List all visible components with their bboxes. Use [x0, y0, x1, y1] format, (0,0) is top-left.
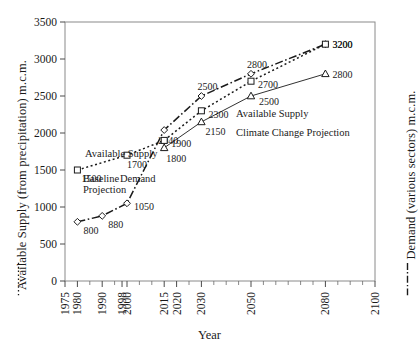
data-point-label: 880 — [108, 219, 123, 230]
x-axis-tick-label: 1980 — [71, 292, 83, 315]
data-point-square — [198, 108, 204, 114]
data-point-label: 2800 — [332, 69, 352, 80]
data-point-label: 2800 — [247, 59, 267, 70]
data-point-square — [74, 167, 80, 173]
y-axis-tick-label: 0 — [51, 275, 57, 287]
x-axis-tick-label: 2030 — [195, 292, 207, 315]
chart-annotation: Baseline — [83, 173, 119, 184]
x-axis-tick-label: 2020 — [171, 292, 183, 315]
data-point-label: 2300 — [208, 109, 228, 120]
y-axis-tick-label: 1000 — [34, 201, 57, 213]
x-axis-tick-label: 2100 — [369, 292, 381, 315]
data-point-label: 2500 — [197, 81, 217, 92]
x-axis-tick-label: 1975 — [59, 292, 71, 315]
data-point-diamond — [74, 218, 81, 225]
data-point-label: 1050 — [134, 201, 154, 212]
x-axis-tick-label: 1990 — [96, 292, 108, 315]
y-axis-tick-label: 2000 — [34, 127, 57, 139]
x-axis-tick-label: 2000 — [121, 292, 133, 315]
data-point-triangle — [198, 118, 205, 125]
chart-annotation: Climate Change Projection — [236, 127, 350, 138]
data-point-label: 2150 — [205, 126, 225, 137]
chart-annotation: Projection — [83, 184, 127, 195]
data-point-label: 1700 — [127, 159, 147, 170]
data-point-label: 1900 — [171, 138, 191, 149]
x-axis-tick-label: 2080 — [319, 292, 331, 315]
x-axis-tick-label: 2015 — [158, 292, 170, 315]
data-point-label: 800 — [83, 225, 98, 236]
data-point-diamond — [124, 200, 131, 207]
y-axis-tick-label: 3500 — [34, 16, 57, 28]
data-point-square — [248, 78, 254, 84]
data-point-label: 3200 — [332, 39, 352, 50]
chart-figure: Available Supply (from precipitation) m.… — [0, 0, 419, 348]
data-point-square — [161, 137, 167, 143]
chart-annotation: Available Supply — [85, 148, 158, 159]
y-axis-tick-label: 2500 — [34, 90, 57, 102]
y-axis-tick-label: 3000 — [34, 53, 57, 65]
data-point-diamond — [99, 212, 106, 219]
data-point-label: 2500 — [259, 96, 279, 107]
chart-annotation: Available Supply — [236, 108, 309, 119]
x-axis-tick-label: 2050 — [245, 292, 257, 315]
y-axis-tick-label: 500 — [40, 238, 58, 250]
chart-annotation: Demand — [120, 173, 156, 184]
data-point-diamond — [248, 70, 255, 77]
data-point-label: 1800 — [166, 153, 186, 164]
y-axis-tick-label: 1500 — [34, 164, 57, 176]
data-point-triangle — [322, 70, 329, 77]
data-point-square — [322, 41, 328, 47]
chart-plot-area: 0500100015002000250030003500197519801990… — [0, 0, 419, 348]
